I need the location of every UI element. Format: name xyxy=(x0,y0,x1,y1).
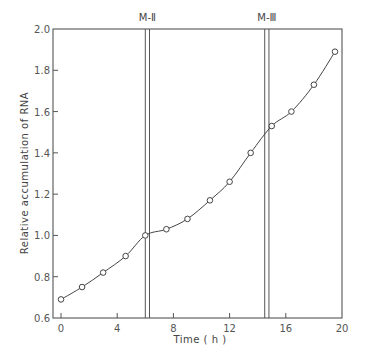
open-circle-marker xyxy=(100,270,106,276)
plot-border xyxy=(53,29,342,318)
y-tick-label: 1.4 xyxy=(34,148,50,159)
open-circle-marker xyxy=(185,216,191,222)
x-tick-label: 0 xyxy=(58,323,64,334)
open-circle-marker xyxy=(58,297,64,303)
series-line xyxy=(61,52,335,300)
y-tick-label: 1.6 xyxy=(34,107,50,118)
open-circle-marker xyxy=(332,49,338,55)
open-circle-marker xyxy=(269,123,275,129)
open-circle-marker xyxy=(207,198,213,204)
x-tick-label: 4 xyxy=(114,323,120,334)
x-axis-title: Time ( h ) xyxy=(172,334,226,345)
y-tick-label: 0.8 xyxy=(34,272,50,283)
y-tick-label: 1.2 xyxy=(34,189,50,200)
y-tick-label: 1.8 xyxy=(34,65,50,76)
x-tick-label: 12 xyxy=(223,323,236,334)
x-tick-label: 20 xyxy=(336,323,349,334)
x-tick-label: 8 xyxy=(170,323,176,334)
plot-frame xyxy=(53,29,342,318)
y-tick-label: 1.0 xyxy=(34,230,50,241)
phase-marker-label: M-Ⅲ xyxy=(257,12,276,23)
x-tick-label: 16 xyxy=(279,323,292,334)
y-axis-title: Relative accumulation of RNA xyxy=(19,92,30,254)
open-circle-marker xyxy=(227,179,233,185)
open-circle-marker xyxy=(79,284,85,290)
open-circle-marker xyxy=(164,226,170,232)
rna-accumulation-chart: M-ⅡM-Ⅲ 048121620 0.60.81.01.21.41.61.82.… xyxy=(0,0,366,354)
open-circle-marker xyxy=(289,109,295,115)
x-axis: 048121620 xyxy=(58,313,349,334)
y-axis: 0.60.81.01.21.41.61.82.0 xyxy=(34,24,58,324)
data-series xyxy=(58,49,338,302)
open-circle-marker xyxy=(123,253,129,259)
open-circle-marker xyxy=(248,150,254,156)
y-tick-label: 2.0 xyxy=(34,24,50,35)
phase-markers: M-ⅡM-Ⅲ xyxy=(139,12,277,318)
open-circle-marker xyxy=(311,82,317,88)
open-circle-marker xyxy=(143,233,149,239)
y-tick-label: 0.6 xyxy=(34,313,50,324)
phase-marker-label: M-Ⅱ xyxy=(139,12,156,23)
